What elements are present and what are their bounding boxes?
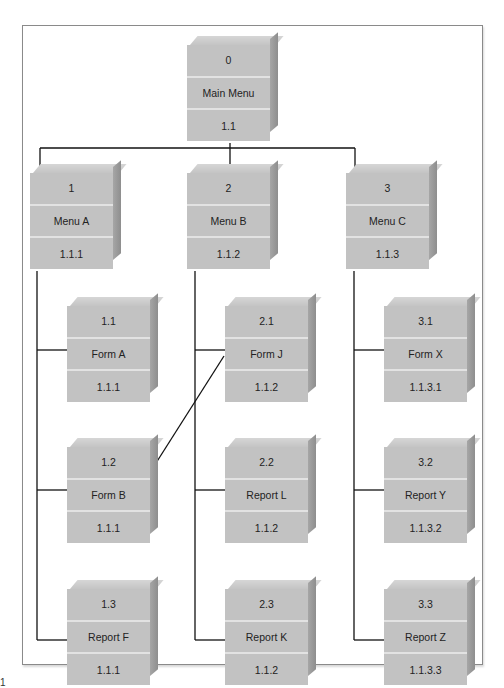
- node-ref: 1.1.2: [225, 652, 308, 685]
- node-report-z[interactable]: 3.3 Report Z 1.1.3.3: [384, 580, 467, 676]
- box-side: [467, 576, 475, 676]
- node-ref: 1.1.1: [67, 652, 150, 685]
- box-front: 3.1 Form X 1.1.3.1: [384, 306, 467, 402]
- box-front: 2.3 Report K 1.1.2: [225, 589, 308, 685]
- node-name: Form A: [67, 337, 150, 370]
- box-front: 3.3 Report Z 1.1.3.3: [384, 589, 467, 685]
- box-side: [113, 160, 121, 260]
- box-front: 0 Main Menu 1.1: [187, 45, 270, 141]
- node-ref: 1.1.3.3: [384, 652, 467, 685]
- node-ref: 1.1.1: [30, 236, 113, 269]
- node-id: 1.2: [67, 447, 150, 478]
- node-id: 2.3: [225, 589, 308, 620]
- box-side: [308, 576, 316, 676]
- node-name: Form B: [67, 478, 150, 511]
- node-report-l[interactable]: 2.2 Report L 1.1.2: [225, 438, 308, 534]
- node-ref: 1.1.3.1: [384, 369, 467, 402]
- node-name: Report F: [67, 620, 150, 653]
- box-front: 1.2 Form B 1.1.1: [67, 447, 150, 543]
- node-id: 1.1: [67, 306, 150, 337]
- box-side: [150, 576, 158, 676]
- node-ref: 1.1.1: [67, 369, 150, 402]
- node-id: 1.3: [67, 589, 150, 620]
- node-id: 2: [187, 173, 270, 204]
- node-id: 3: [346, 173, 429, 204]
- node-name: Form X: [384, 337, 467, 370]
- node-id: 2.1: [225, 306, 308, 337]
- node-form-b[interactable]: 1.2 Form B 1.1.1: [67, 438, 150, 534]
- node-ref: 1.1.3: [346, 236, 429, 269]
- box-front: 3.2 Report Y 1.1.3.2: [384, 447, 467, 543]
- node-name: Form J: [225, 337, 308, 370]
- node-report-k[interactable]: 2.3 Report K 1.1.2: [225, 580, 308, 676]
- node-report-y[interactable]: 3.2 Report Y 1.1.3.2: [384, 438, 467, 534]
- box-side: [270, 32, 278, 132]
- node-form-j[interactable]: 2.1 Form J 1.1.2: [225, 297, 308, 393]
- box-front: 1 Menu A 1.1.1: [30, 173, 113, 269]
- node-ref: 1.1.1: [67, 510, 150, 543]
- box-front: 1.1 Form A 1.1.1: [67, 306, 150, 402]
- node-id: 3.2: [384, 447, 467, 478]
- node-name: Report L: [225, 478, 308, 511]
- node-id: 1: [30, 173, 113, 204]
- box-side: [150, 293, 158, 393]
- node-name: Menu B: [187, 204, 270, 237]
- node-main-menu[interactable]: 0 Main Menu 1.1: [187, 36, 270, 132]
- node-id: 3.3: [384, 589, 467, 620]
- box-side: [429, 160, 437, 260]
- node-id: 3.1: [384, 306, 467, 337]
- box-front: 2.2 Report L 1.1.2: [225, 447, 308, 543]
- node-name: Report Z: [384, 620, 467, 653]
- box-side: [308, 434, 316, 534]
- node-report-f[interactable]: 1.3 Report F 1.1.1: [67, 580, 150, 676]
- box-front: 1.3 Report F 1.1.1: [67, 589, 150, 685]
- box-side: [150, 434, 158, 534]
- node-menu-b[interactable]: 2 Menu B 1.1.2: [187, 164, 270, 260]
- box-side: [467, 434, 475, 534]
- node-id: 0: [187, 45, 270, 76]
- box-side: [308, 293, 316, 393]
- node-ref: 1.1: [187, 108, 270, 141]
- node-form-a[interactable]: 1.1 Form A 1.1.1: [67, 297, 150, 393]
- node-id: 2.2: [225, 447, 308, 478]
- node-name: Main Menu: [187, 76, 270, 109]
- node-menu-c[interactable]: 3 Menu C 1.1.3: [346, 164, 429, 260]
- node-name: Report Y: [384, 478, 467, 511]
- node-ref: 1.1.2: [187, 236, 270, 269]
- box-front: 2 Menu B 1.1.2: [187, 173, 270, 269]
- node-name: Menu A: [30, 204, 113, 237]
- figure-label: 1: [0, 677, 6, 688]
- node-name: Menu C: [346, 204, 429, 237]
- node-ref: 1.1.2: [225, 369, 308, 402]
- node-name: Report K: [225, 620, 308, 653]
- node-form-x[interactable]: 3.1 Form X 1.1.3.1: [384, 297, 467, 393]
- box-side: [270, 160, 278, 260]
- node-ref: 1.1.2: [225, 510, 308, 543]
- box-front: 2.1 Form J 1.1.2: [225, 306, 308, 402]
- node-menu-a[interactable]: 1 Menu A 1.1.1: [30, 164, 113, 260]
- box-front: 3 Menu C 1.1.3: [346, 173, 429, 269]
- box-side: [467, 293, 475, 393]
- node-ref: 1.1.3.2: [384, 510, 467, 543]
